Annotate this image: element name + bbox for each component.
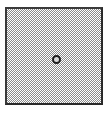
dithered-square-panel [5, 7, 103, 105]
circle-marker-icon[interactable] [52, 55, 61, 64]
